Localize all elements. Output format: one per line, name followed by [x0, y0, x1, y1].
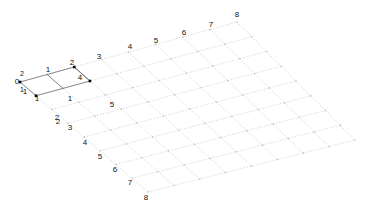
node-label-left-8: 8: [144, 193, 149, 202]
node-label-left-3: 3: [68, 123, 73, 132]
mesh-plot-canvas: 012123456781234567841512: [0, 0, 372, 210]
node-label-left-7: 7: [128, 178, 133, 187]
grid-nodes: [19, 21, 356, 193]
node-label-left-1: 1: [35, 94, 40, 103]
node-label-top-1: 1: [46, 65, 51, 74]
element-label-1: 1: [68, 94, 73, 103]
node-label-left-6: 6: [113, 165, 118, 174]
element-label-0: 4: [78, 73, 83, 82]
node-label-top-8: 8: [235, 10, 240, 19]
node-label-top-3: 3: [97, 52, 102, 61]
node-label-left-4: 4: [83, 138, 88, 147]
element-label-2: 5: [110, 100, 115, 109]
mesh-figure: 012123456781234567841512: [0, 0, 372, 210]
node-label-top-2: 2: [70, 58, 75, 67]
element-label-4: 2: [56, 117, 61, 126]
element-label-3: 1: [23, 87, 28, 96]
node-label-top-6: 6: [182, 28, 187, 37]
node-label-origin-upper: 2: [20, 70, 24, 77]
node-label-top-4: 4: [128, 42, 133, 51]
node-label-top-5: 5: [154, 36, 159, 45]
grid-lines: [20, 22, 355, 192]
node-label-origin: 0: [15, 77, 20, 86]
node-label-top-7: 7: [209, 20, 214, 29]
node-label-left-5: 5: [98, 152, 103, 161]
